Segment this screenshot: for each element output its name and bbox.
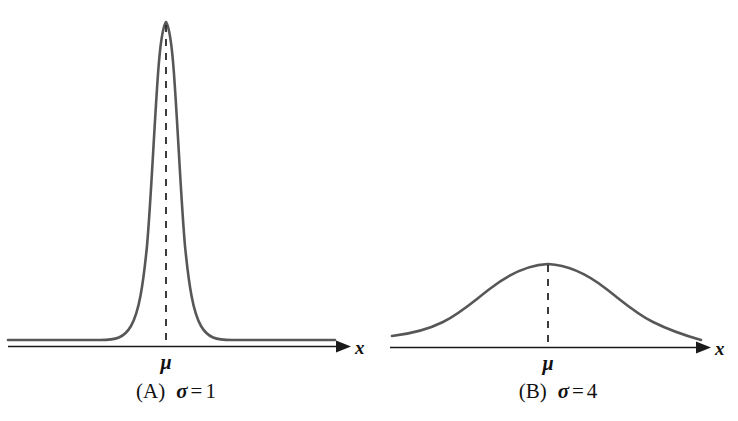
panel-b-sigma-symbol: σ (558, 379, 569, 403)
panel-a-tag: (A) (136, 379, 165, 403)
panel-a-sigma-value: 1 (205, 379, 216, 403)
normal-distribution-figure: x μ (A)σ=1 x μ (B)σ=4 (0, 0, 738, 421)
panel-b-caption: (B)σ=4 (519, 381, 598, 402)
panel-b-tag: (B) (519, 379, 547, 403)
mean-label-b: μ (542, 353, 553, 373)
normal-curve-sigma-4 (392, 264, 701, 340)
panel-b: x μ (B)σ=4 (369, 0, 738, 421)
normal-curve-sigma-1 (8, 22, 335, 340)
panel-a-sigma-symbol: σ (176, 379, 187, 403)
x-axis-arrowhead-b (696, 342, 711, 354)
x-axis-arrowhead-a (336, 341, 351, 353)
panel-a-plot (0, 0, 369, 421)
mean-label-a: μ (160, 352, 171, 372)
panel-a: x μ (A)σ=1 (0, 0, 369, 421)
x-axis-label-a: x (355, 338, 365, 357)
panel-a-caption: (A)σ=1 (136, 381, 216, 402)
x-axis-label-b: x (715, 339, 725, 358)
panel-b-equals: = (569, 379, 587, 403)
panel-a-equals: = (188, 379, 206, 403)
panel-b-sigma-value: 4 (587, 379, 598, 403)
